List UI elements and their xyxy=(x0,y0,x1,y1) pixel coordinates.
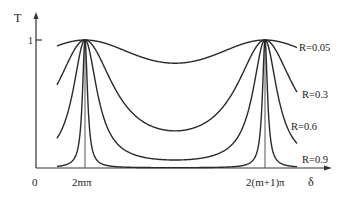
x-tick-2m1pi: 2(m+1)π xyxy=(246,176,285,189)
y-axis-label: T xyxy=(14,11,22,25)
y-axis-arrow-icon xyxy=(34,12,39,19)
y-tick-one-label: 1 xyxy=(28,35,33,46)
curves xyxy=(57,40,297,168)
x-axis-label: δ xyxy=(308,175,314,189)
legend-r-0-3: R=0.3 xyxy=(302,89,328,100)
x-axis-arrow-icon xyxy=(324,166,332,171)
legend-r-0-6: R=0.6 xyxy=(291,121,317,132)
origin-label: 0 xyxy=(32,176,38,188)
legend-r-0-05: R=0.05 xyxy=(299,42,330,53)
curve-r-0-9 xyxy=(57,40,297,168)
airy-transmission-chart: T 1 0 2mπ 2(m+1)π δ R=0.05 R=0.3 R=0.6 R… xyxy=(0,0,346,197)
legend-r-0-9: R=0.9 xyxy=(302,154,328,165)
curve-r-0-6 xyxy=(57,40,297,160)
x-tick-2mpi: 2mπ xyxy=(72,176,92,188)
